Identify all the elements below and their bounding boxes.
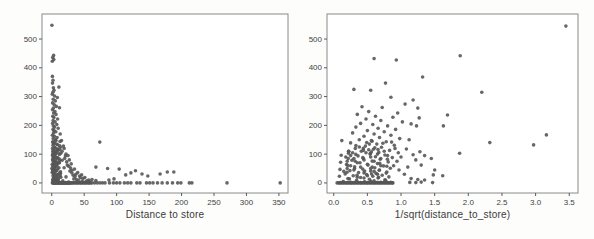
svg-text:100: 100 xyxy=(110,198,124,207)
scatter-figure: 0501001502002503003500100200300400500 0.… xyxy=(0,0,594,239)
right-scatter-plot: 0.00.51.01.52.02.53.03.50100200300400500 xyxy=(297,0,594,239)
svg-text:250: 250 xyxy=(207,198,221,207)
svg-text:500: 500 xyxy=(309,35,323,44)
svg-text:3.5: 3.5 xyxy=(564,198,576,207)
right-scatter-panel: 0.00.51.01.52.02.53.03.50100200300400500 xyxy=(297,0,594,239)
svg-text:150: 150 xyxy=(142,198,156,207)
svg-text:200: 200 xyxy=(175,198,189,207)
svg-text:300: 300 xyxy=(240,198,254,207)
svg-text:400: 400 xyxy=(24,63,38,72)
svg-text:100: 100 xyxy=(24,150,38,159)
svg-text:2.0: 2.0 xyxy=(463,198,475,207)
svg-text:200: 200 xyxy=(24,121,38,130)
svg-text:0.5: 0.5 xyxy=(362,198,374,207)
svg-text:500: 500 xyxy=(24,35,38,44)
svg-text:1.0: 1.0 xyxy=(395,198,407,207)
left-x-axis-label: Distance to store xyxy=(42,209,288,220)
svg-text:0: 0 xyxy=(50,198,55,207)
svg-text:100: 100 xyxy=(309,150,323,159)
svg-text:0.0: 0.0 xyxy=(328,198,340,207)
svg-text:300: 300 xyxy=(309,92,323,101)
svg-text:400: 400 xyxy=(309,63,323,72)
svg-text:2.5: 2.5 xyxy=(496,198,508,207)
svg-text:300: 300 xyxy=(24,92,38,101)
svg-text:3.0: 3.0 xyxy=(530,198,542,207)
svg-text:0: 0 xyxy=(318,178,323,187)
svg-text:0: 0 xyxy=(33,178,38,187)
svg-text:1.5: 1.5 xyxy=(429,198,441,207)
left-scatter-panel: 0501001502002503003500100200300400500 xyxy=(0,0,297,239)
svg-text:50: 50 xyxy=(80,198,89,207)
left-scatter-plot: 0501001502002503003500100200300400500 xyxy=(0,0,297,239)
svg-text:200: 200 xyxy=(309,121,323,130)
right-x-axis-label: 1/sqrt(distance_to_store) xyxy=(327,209,578,220)
svg-text:350: 350 xyxy=(272,198,286,207)
